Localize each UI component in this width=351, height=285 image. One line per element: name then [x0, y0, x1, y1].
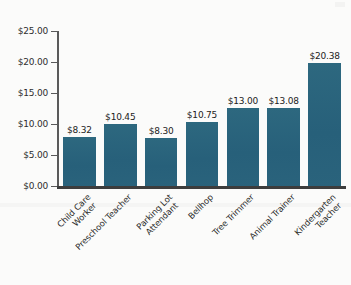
bar-chart: $25.00 $20.00 $15.00 $10.00 $5.00 $0.00 …	[0, 0, 351, 285]
bar-3: $8.30	[145, 138, 178, 189]
bar-rect	[145, 138, 178, 189]
bar-2: $10.45	[104, 124, 137, 189]
bar-4: $10.75	[186, 122, 219, 189]
bar-value-label: $13.08	[269, 96, 299, 106]
bar-1: $8.32	[63, 137, 96, 189]
bar-value-label: $10.45	[105, 112, 135, 122]
bar-value-label: $8.32	[67, 125, 92, 135]
bar-6: $13.08	[267, 108, 300, 189]
bar-value-label: $10.75	[187, 110, 217, 120]
bar-5: $13.00	[227, 108, 260, 189]
bar-7: $20.38	[308, 63, 341, 189]
bar-rect	[63, 137, 96, 189]
bar-value-label: $13.00	[228, 96, 258, 106]
bar-rect	[186, 122, 219, 189]
bar-value-label: $8.30	[149, 126, 174, 136]
bar-rect	[104, 124, 137, 189]
bar-rect	[267, 108, 300, 189]
bar-value-label: $20.38	[309, 51, 339, 61]
bar-rect	[308, 63, 341, 189]
x-axis-baseline	[57, 186, 346, 189]
bar-rect	[227, 108, 260, 189]
